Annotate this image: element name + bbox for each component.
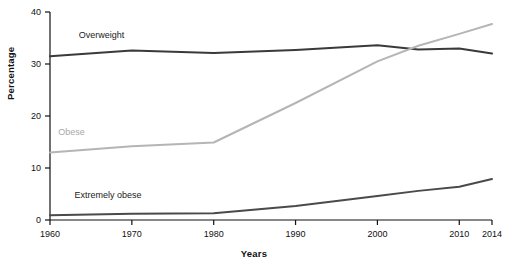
x-tick-label: 1970 [122,229,142,239]
series-label: Extremely obese [75,190,142,200]
chart-container: Percentage Years 010203040 1960197019801… [0,0,508,267]
y-tick-label: 30 [31,59,41,69]
series-line [50,24,492,152]
x-tick-label: 2010 [449,229,469,239]
x-tick-label: 2014 [482,229,502,239]
y-tick-label: 10 [31,163,41,173]
x-tick-label: 2000 [367,229,387,239]
series-group [50,24,492,215]
series-label: Obese [58,127,85,137]
y-tick-label: 20 [31,111,41,121]
x-tick-label: 1980 [204,229,224,239]
y-tick-group: 010203040 [31,7,50,225]
x-tick-group: 1960197019801990200020102014 [40,220,502,239]
line-chart-plot: 010203040 1960197019801990200020102014 O… [0,0,508,267]
series-label: Overweight [79,30,125,40]
y-tick-label: 0 [36,215,41,225]
series-line [50,45,492,56]
x-tick-label: 1990 [286,229,306,239]
x-tick-label: 1960 [40,229,60,239]
y-tick-label: 40 [31,7,41,17]
